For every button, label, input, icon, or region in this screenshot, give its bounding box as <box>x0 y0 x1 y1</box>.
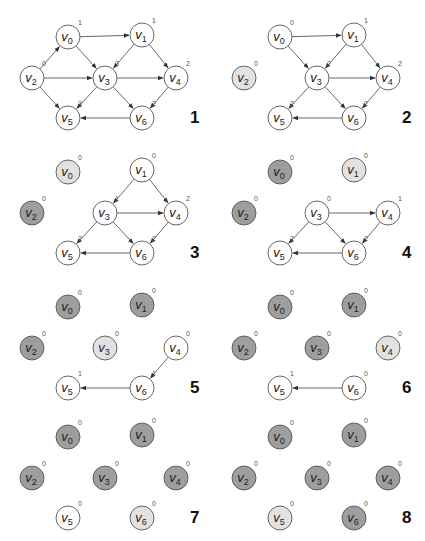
node-v5-indegree: 0 <box>78 500 82 507</box>
node-v5-indegree: 1 <box>78 370 82 377</box>
node-v5-indegree: 2 <box>290 235 294 242</box>
edge-v1-v4 <box>361 44 379 67</box>
node-v3: v30 <box>305 460 331 490</box>
node-v3: v30 <box>305 330 331 360</box>
node-v5: v52 <box>56 235 82 265</box>
node-v1: v10 <box>130 287 156 317</box>
edge-v0-v1 <box>292 35 341 36</box>
node-v4-indegree: 2 <box>186 60 190 67</box>
node-v1: v11 <box>342 17 368 47</box>
node-v0: v01 <box>56 19 82 49</box>
node-v6-indegree: 0 <box>364 370 368 377</box>
node-v4-indegree: 1 <box>398 195 402 202</box>
node-v4-indegree: 0 <box>186 330 190 337</box>
node-v2-indegree: 0 <box>42 195 46 202</box>
node-v6: v60 <box>342 500 368 530</box>
step-label-3: 3 <box>190 243 199 262</box>
node-v5: v53 <box>56 100 82 130</box>
node-v1-indegree: 0 <box>152 417 156 424</box>
node-v2: v20 <box>20 195 46 225</box>
node-v6: v62 <box>130 235 156 265</box>
node-v0: v00 <box>268 289 294 319</box>
panel-step-2: v00v11v20v32v42v52v622 <box>232 17 411 130</box>
edge-v3-v6 <box>325 87 345 109</box>
node-v1-indegree: 0 <box>364 152 368 159</box>
node-v4-indegree: 0 <box>398 330 402 337</box>
node-v6: v62 <box>130 100 156 130</box>
node-v0-indegree: 0 <box>78 419 82 426</box>
node-v4: v42 <box>164 195 190 225</box>
step-label-6: 6 <box>402 378 411 397</box>
step-label-5: 5 <box>190 378 199 397</box>
node-v3-indegree: 0 <box>115 460 119 467</box>
node-v5: v51 <box>56 370 82 400</box>
edge-v1-v4 <box>149 44 167 67</box>
node-v3: v32 <box>305 60 331 90</box>
node-v3-indegree: 0 <box>115 330 119 337</box>
node-v3-indegree: 0 <box>327 460 331 467</box>
edge-v1-v4 <box>149 179 167 202</box>
node-v1: v10 <box>130 417 156 447</box>
node-v5-indegree: 2 <box>290 100 294 107</box>
node-v2: v20 <box>20 460 46 490</box>
node-v4: v41 <box>376 195 402 225</box>
panels-container: v01v11v20v33v42v53v621v00v11v20v32v42v52… <box>20 17 412 530</box>
node-v2-indegree: 0 <box>254 60 258 67</box>
node-v3: v33 <box>93 60 119 90</box>
node-v2-indegree: 0 <box>42 60 46 67</box>
node-v0-indegree: 1 <box>78 19 82 26</box>
panel-step-6: v00v10v20v30v40v51v606 <box>232 287 411 400</box>
node-v3-indegree: 1 <box>115 195 119 202</box>
node-v6: v60 <box>130 500 156 530</box>
node-v5: v50 <box>268 500 294 530</box>
node-v1-indegree: 1 <box>364 17 368 24</box>
node-v5: v52 <box>268 235 294 265</box>
node-v6: v62 <box>342 100 368 130</box>
node-v4: v40 <box>164 330 190 360</box>
edge-v2-v5 <box>40 87 59 108</box>
node-v1: v10 <box>342 417 368 447</box>
node-v5: v51 <box>268 370 294 400</box>
step-label-1: 1 <box>190 108 199 127</box>
topological-sort-diagram: v01v11v20v33v42v53v621v00v11v20v32v42v52… <box>0 0 425 541</box>
edge-v0-v3 <box>76 46 96 68</box>
node-v3: v30 <box>305 195 331 225</box>
node-v0-indegree: 0 <box>78 154 82 161</box>
node-v0: v00 <box>268 154 294 184</box>
panel-step-3: v00v10v20v31v42v52v623 <box>20 152 199 265</box>
node-v1: v11 <box>130 17 156 47</box>
node-v1-indegree: 0 <box>364 417 368 424</box>
node-v0: v00 <box>56 289 82 319</box>
node-v5: v52 <box>268 100 294 130</box>
panel-step-5: v00v10v20v30v40v51v615 <box>20 287 199 400</box>
node-v2: v20 <box>232 330 258 360</box>
node-v6-indegree: 2 <box>152 235 156 242</box>
node-v1-indegree: 0 <box>152 152 156 159</box>
step-label-2: 2 <box>402 108 411 127</box>
node-v0-indegree: 0 <box>78 289 82 296</box>
node-v3-indegree: 2 <box>327 60 331 67</box>
panel-step-8: v00v10v20v30v40v50v608 <box>232 417 411 530</box>
step-label-7: 7 <box>190 508 199 527</box>
panel-step-7: v00v10v20v30v40v50v607 <box>20 417 199 530</box>
node-v6-indegree: 2 <box>364 100 368 107</box>
node-v2-indegree: 0 <box>42 460 46 467</box>
node-v6-indegree: 2 <box>364 235 368 242</box>
node-v0-indegree: 0 <box>290 289 294 296</box>
node-v4: v40 <box>376 330 402 360</box>
node-v5: v50 <box>56 500 82 530</box>
node-v4: v40 <box>376 460 402 490</box>
node-v1: v10 <box>130 152 156 182</box>
node-v2: v20 <box>232 60 258 90</box>
node-v5-indegree: 1 <box>290 370 294 377</box>
edge-v3-v6 <box>113 87 133 109</box>
node-v6-indegree: 0 <box>152 500 156 507</box>
node-v0: v00 <box>56 154 82 184</box>
node-v2: v20 <box>20 60 46 90</box>
node-v4-indegree: 2 <box>398 60 402 67</box>
panel-step-4: v00v10v20v30v41v52v624 <box>232 152 412 265</box>
node-v4-indegree: 2 <box>186 195 190 202</box>
node-v4: v42 <box>376 60 402 90</box>
node-v2-indegree: 0 <box>254 195 258 202</box>
node-v6: v62 <box>342 235 368 265</box>
